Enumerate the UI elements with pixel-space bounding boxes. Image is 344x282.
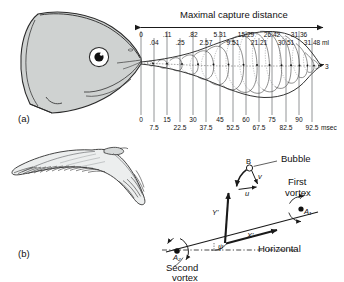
bottom-tick-row2-2: 37.5 (200, 124, 213, 131)
psi-angle-label: ψ (218, 242, 223, 251)
bottom-tick-row1-4: 60 (242, 116, 249, 123)
top-tick-row1-0: 0 (139, 31, 143, 38)
figure-root: (a) (b) Maximal capture distance 0 .11 .… (0, 0, 344, 282)
top-tick-row1-2: .82 (188, 31, 197, 38)
top-tick-row2-4: 21.21 (251, 39, 268, 46)
bubble-label: Bubble (281, 153, 311, 164)
top-tick-row1-5: 26.42 (264, 31, 281, 38)
top-tick-row1-6: 31.36 (291, 31, 308, 38)
top-tick-row2-2: 2.57 (200, 39, 213, 46)
fish-head-illustration (21, 12, 142, 113)
point-b-label: B (246, 157, 251, 166)
second-vortex-label-line2: vortex (172, 272, 198, 282)
bottom-tick-row1-0: 0 (139, 116, 143, 123)
bottom-tick-row2-5: 82.5 (280, 124, 293, 131)
top-tick-row1-1: .11 (163, 31, 172, 38)
vortex-a1-label: A₁ (304, 207, 311, 216)
capture-distance-title: Maximal capture distance (180, 9, 288, 20)
bottom-tick-row2-6: 92.5 (306, 124, 319, 131)
bottom-tick-row1-3: 45 (216, 116, 223, 123)
panel-a-label: (a) (18, 113, 30, 124)
top-tick-row1-4: 15.29 (238, 31, 255, 38)
bottom-tick-row2-4: 67.5 (253, 124, 266, 131)
bottom-tick-row1-1: 15 (163, 116, 170, 123)
bottom-tick-row2-1: 22.5 (174, 124, 187, 131)
bottom-tick-row1-6: 90 (295, 116, 302, 123)
bottom-tick-row1-5: 75 (268, 116, 275, 123)
panel-b-label: (b) (18, 248, 30, 259)
right-end-marker-label: 3 (325, 63, 329, 70)
first-vortex-label-line1: First (288, 176, 306, 187)
top-tick-row2-5: 30.51 (278, 39, 295, 46)
top-tick-row2-3: 9.51 (227, 39, 240, 46)
x-axis-label: X' (247, 231, 253, 240)
bolus-node-markers (152, 63, 315, 67)
first-vortex-label-line2: vortex (285, 187, 311, 198)
horizontal-label: Horizontal (258, 243, 301, 254)
top-tick-row2-1: .25 (175, 39, 184, 46)
bird-wing-illustration (12, 147, 145, 204)
bottom-tick-row1-2: 30 (189, 116, 196, 123)
top-tick-row2-6: 31.48 (304, 39, 321, 46)
top-tick-row2-0: .04 (149, 39, 158, 46)
vortex-a2-label: A₂ (173, 253, 181, 262)
top-tick-row1-3: 5.31 (214, 31, 227, 38)
vector-v-label: v (258, 172, 262, 181)
y-axis-label: Y' (212, 208, 218, 217)
bubble-marker (237, 161, 277, 189)
volume-unit-label: ml (322, 39, 329, 46)
bottom-tick-row2-3: 52.5 (227, 124, 240, 131)
bottom-tick-row2-0: 7.5 (149, 124, 158, 131)
vector-u-label: u (245, 189, 249, 198)
time-unit-label: msec (321, 124, 337, 131)
